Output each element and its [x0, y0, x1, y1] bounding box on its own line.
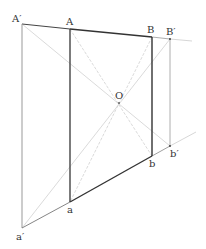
label-A-prime: A′ [11, 13, 22, 24]
diagonal-B-a [70, 37, 152, 202]
label-a: a [67, 204, 73, 215]
label-b-prime: b′ [170, 148, 179, 159]
diagonal-A-b [70, 29, 152, 156]
edge-B-Bprime [152, 37, 170, 39]
point-Bprime-marker [169, 38, 171, 40]
diagonal-Bprime-aprime [22, 39, 170, 228]
bottom-extension-line [170, 132, 196, 146]
edge-b-bprime [152, 146, 170, 156]
label-a-prime: a′ [16, 231, 25, 242]
edge-Aprime-A [22, 24, 70, 29]
label-A: A [65, 16, 74, 27]
diagonal-Aprime-bprime [22, 24, 170, 146]
edge-A-B [70, 29, 152, 37]
label-B: B [147, 24, 154, 35]
projection-diagram: A′ A B B′ O b′ b a a′ [0, 0, 206, 249]
label-O: O [115, 90, 123, 101]
point-bprime-marker [169, 145, 171, 147]
label-B-prime: B′ [166, 26, 176, 37]
label-b: b [149, 158, 155, 169]
edge-aprime-a [22, 202, 70, 228]
edge-a-b [70, 156, 152, 202]
point-O-marker [118, 102, 120, 104]
top-extension-line [170, 39, 192, 41]
